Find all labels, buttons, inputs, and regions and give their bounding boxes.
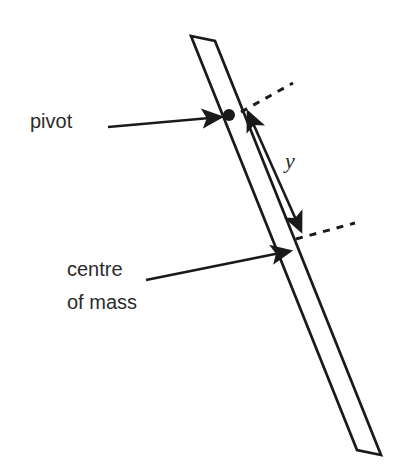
rod-pendulum-figure: pivot centre of mass y [0, 0, 398, 474]
distance-symbol-label: y [283, 148, 295, 173]
centre-of-mass-label-line-2: of mass [67, 291, 137, 313]
centre-of-mass-label-line-1: centre [67, 258, 123, 280]
physics-diagram: pivot centre of mass y [0, 0, 398, 474]
pivot-point-dot [223, 109, 235, 121]
pivot-label: pivot [30, 110, 73, 132]
